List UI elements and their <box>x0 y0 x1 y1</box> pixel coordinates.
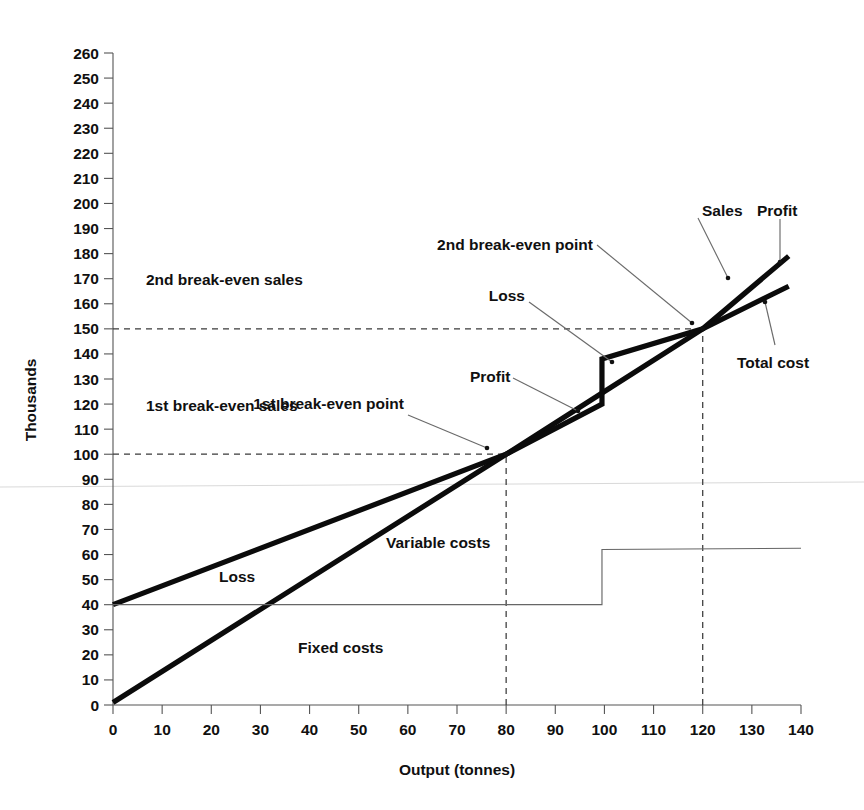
break-even-marker <box>504 452 509 457</box>
y-tick-label: 50 <box>82 571 99 588</box>
y-tick-label: 210 <box>73 170 99 187</box>
y-tick-label: 160 <box>73 295 99 312</box>
leader-dot-sales <box>726 276 731 281</box>
x-tick-label: 60 <box>399 721 416 738</box>
y-tick-label: 200 <box>73 195 99 212</box>
y-tick-label: 150 <box>73 320 99 337</box>
x-tick-label: 10 <box>154 721 171 738</box>
label-2nd-break-even-point: 2nd break-even point <box>437 236 593 253</box>
leader-dot-1st-break-even-point <box>485 446 490 451</box>
y-tick-label: 130 <box>73 371 99 388</box>
y-tick-label: 70 <box>82 521 99 538</box>
leader-dot-2nd-break-even-point <box>690 321 695 326</box>
y-tick-label: 180 <box>73 245 99 262</box>
x-tick-label: 30 <box>252 721 269 738</box>
x-tick-label: 20 <box>203 721 220 738</box>
y-axis-title: Thousands <box>22 359 39 442</box>
y-tick-label: 110 <box>74 421 99 438</box>
x-tick-label: 130 <box>739 721 765 738</box>
y-tick-label: 80 <box>82 496 99 513</box>
x-tick-label: 0 <box>109 721 118 738</box>
y-tick-label: 250 <box>73 70 99 87</box>
y-tick-label: 190 <box>73 220 99 237</box>
label-2nd-break-even-sales: 2nd break-even sales <box>146 271 303 288</box>
label-1st-break-even-point: 1st break-even point <box>253 395 404 412</box>
leader-dot-loss-upper <box>610 360 615 365</box>
leader-dot-total-cost <box>763 300 768 305</box>
y-tick-label: 170 <box>73 270 99 287</box>
x-tick-label: 70 <box>448 721 465 738</box>
label-profit-right: Profit <box>757 202 797 219</box>
x-tick-label: 40 <box>301 721 318 738</box>
chart-background <box>0 0 864 810</box>
x-tick-label: 110 <box>641 721 666 738</box>
label-profit-mid: Profit <box>470 368 510 385</box>
y-tick-label: 30 <box>82 621 99 638</box>
label-loss-lower: Loss <box>219 568 255 585</box>
label-total-cost: Total cost <box>737 354 809 371</box>
y-tick-label: 0 <box>90 697 99 714</box>
label-fixed-costs: Fixed costs <box>298 639 383 656</box>
y-tick-label: 90 <box>82 471 99 488</box>
y-tick-label: 260 <box>73 45 99 62</box>
break-even-marker <box>700 326 705 331</box>
leader-dot-profit-mid <box>576 409 581 414</box>
break-even-chart: 0102030405060708090100110120130140150160… <box>0 0 864 810</box>
x-tick-label: 100 <box>591 721 617 738</box>
label-loss-upper: Loss <box>489 287 525 304</box>
chart-canvas: 0102030405060708090100110120130140150160… <box>0 0 864 810</box>
x-tick-label: 120 <box>690 721 716 738</box>
label-sales: Sales <box>702 202 743 219</box>
x-tick-label: 140 <box>788 721 814 738</box>
y-tick-label: 240 <box>73 95 99 112</box>
y-tick-label: 10 <box>82 671 99 688</box>
y-tick-label: 120 <box>73 396 99 413</box>
y-tick-label: 60 <box>82 546 99 563</box>
x-tick-label: 80 <box>498 721 515 738</box>
x-tick-label: 90 <box>547 721 564 738</box>
y-tick-label: 140 <box>73 345 99 362</box>
y-tick-label: 20 <box>82 646 99 663</box>
y-tick-label: 100 <box>73 446 99 463</box>
y-tick-label: 40 <box>82 596 99 613</box>
x-axis-title: Output (tonnes) <box>399 761 515 778</box>
label-variable-costs: Variable costs <box>386 534 490 551</box>
y-tick-label: 220 <box>73 145 99 162</box>
x-axis-tick-labels: 0102030405060708090100110120130140 <box>109 721 814 738</box>
leader-dot-profit-right <box>778 260 783 265</box>
y-tick-label: 230 <box>73 120 99 137</box>
x-tick-label: 50 <box>350 721 367 738</box>
